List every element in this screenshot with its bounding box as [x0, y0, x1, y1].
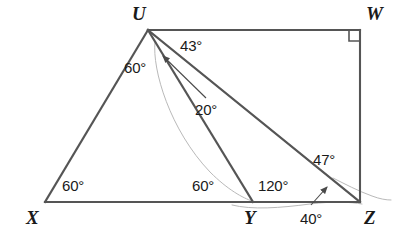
- segment-UX: [45, 30, 148, 202]
- angle-label-43-at-U: 43°: [180, 38, 202, 53]
- angle-label-40-at-Z: 40°: [300, 211, 322, 226]
- vertex-label-W: W: [366, 4, 383, 23]
- vertex-label-U: U: [132, 4, 146, 23]
- angle-label-60-at-X: 60°: [62, 178, 84, 193]
- vertex-label-Z: Z: [364, 208, 376, 227]
- leader-arrow-layer: [163, 56, 327, 205]
- segment-UZ: [148, 30, 360, 202]
- angle-label-47-at-Z: 47°: [313, 152, 335, 167]
- angle-label-120-at-Y: 120°: [258, 178, 288, 193]
- faint-mark-past-Z: [333, 178, 391, 200]
- angle-label-60-at-U: 60°: [124, 60, 146, 75]
- angle-label-60-at-Y: 60°: [192, 178, 214, 193]
- vertex-label-X: X: [26, 208, 39, 227]
- vertex-label-Y: Y: [244, 208, 256, 227]
- right-angle-layer: [349, 30, 360, 41]
- angle-label-20-at-U: 20°: [195, 102, 217, 117]
- geometry-figure: 60°43°20°60°60°120°47°40° UWXYZ: [0, 0, 405, 235]
- right-angle-marker-W: [349, 30, 360, 41]
